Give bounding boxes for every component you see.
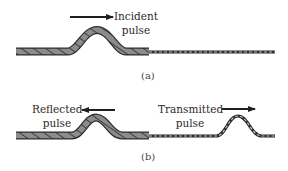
transmitted-label-line1: Transmitted bbox=[158, 103, 222, 115]
reflected-pulse-label: Reflected pulse bbox=[32, 103, 82, 129]
panel-b-caption: (b) bbox=[141, 151, 155, 162]
rope-pulse-diagram: Incident pulse (a) Reflected pulse Trans… bbox=[0, 0, 288, 171]
transmitted-pulse-label: Transmitted pulse bbox=[158, 103, 222, 129]
transmitted-label-line2: pulse bbox=[158, 117, 222, 129]
incident-pulse-label: Incident pulse bbox=[113, 10, 159, 36]
panel-a-caption: (a) bbox=[141, 70, 155, 81]
incident-label-line2: pulse bbox=[113, 24, 159, 36]
incident-label-line1: Incident bbox=[113, 10, 159, 22]
reflected-label-line2: pulse bbox=[32, 117, 82, 129]
reflected-label-line1: Reflected bbox=[32, 103, 82, 115]
